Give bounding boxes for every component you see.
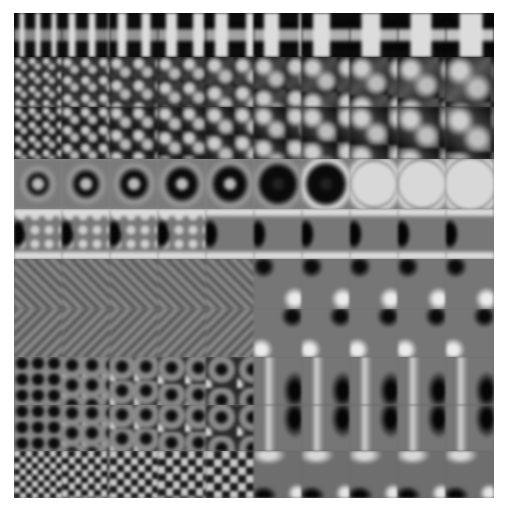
image-cell bbox=[62, 13, 110, 57]
image-cell bbox=[302, 357, 350, 405]
image-cell bbox=[62, 405, 110, 451]
image-row-1 bbox=[14, 57, 494, 108]
image-cell bbox=[254, 309, 302, 357]
image-cell bbox=[14, 259, 62, 309]
image-cell bbox=[446, 209, 494, 259]
image-cell bbox=[254, 57, 302, 107]
image-cell bbox=[110, 451, 158, 498]
image-cell bbox=[254, 259, 302, 309]
image-cell bbox=[398, 405, 446, 451]
image-cell bbox=[110, 209, 158, 259]
image-cell bbox=[206, 13, 254, 57]
image-cell bbox=[158, 259, 206, 309]
image-cell bbox=[14, 357, 62, 405]
image-cell bbox=[350, 405, 398, 451]
image-cell bbox=[446, 159, 494, 209]
image-cell bbox=[206, 57, 254, 107]
image-cell bbox=[110, 309, 158, 357]
image-cell bbox=[302, 405, 350, 451]
image-cell bbox=[158, 209, 206, 259]
image-cell bbox=[350, 451, 398, 498]
image-row-7 bbox=[14, 357, 494, 406]
image-cell bbox=[110, 259, 158, 309]
image-cell bbox=[206, 107, 254, 159]
image-cell bbox=[62, 357, 110, 405]
image-cell bbox=[158, 357, 206, 405]
image-cell bbox=[350, 357, 398, 405]
image-row-0 bbox=[14, 13, 494, 58]
image-cell bbox=[446, 405, 494, 451]
image-cell bbox=[398, 451, 446, 498]
image-cell bbox=[206, 259, 254, 309]
image-cell bbox=[350, 13, 398, 57]
image-cell bbox=[158, 405, 206, 451]
image-cell bbox=[206, 405, 254, 451]
image-cell bbox=[302, 209, 350, 259]
image-cell bbox=[158, 451, 206, 498]
image-cell bbox=[110, 357, 158, 405]
image-cell bbox=[14, 159, 62, 209]
image-cell bbox=[110, 159, 158, 209]
image-row-8 bbox=[14, 405, 494, 452]
image-cell bbox=[254, 405, 302, 451]
image-cell bbox=[62, 259, 110, 309]
image-row-2 bbox=[14, 107, 494, 160]
image-cell bbox=[350, 57, 398, 107]
image-cell bbox=[398, 309, 446, 357]
image-cell bbox=[302, 159, 350, 209]
image-row-6 bbox=[14, 309, 494, 358]
image-row-5 bbox=[14, 259, 494, 310]
image-cell bbox=[158, 107, 206, 159]
image-cell bbox=[350, 259, 398, 309]
image-cell bbox=[302, 13, 350, 57]
image-cell bbox=[206, 209, 254, 259]
image-cell bbox=[62, 107, 110, 159]
image-cell bbox=[446, 107, 494, 159]
image-row-4 bbox=[14, 209, 494, 260]
image-cell bbox=[350, 107, 398, 159]
image-cell bbox=[350, 209, 398, 259]
image-cell bbox=[254, 451, 302, 498]
image-cell bbox=[254, 107, 302, 159]
image-cell bbox=[158, 57, 206, 107]
image-cell bbox=[446, 451, 494, 498]
image-cell bbox=[302, 309, 350, 357]
image-cell bbox=[446, 259, 494, 309]
image-cell bbox=[110, 405, 158, 451]
image-cell bbox=[254, 13, 302, 57]
image-cell bbox=[350, 309, 398, 357]
image-cell bbox=[14, 209, 62, 259]
image-cell bbox=[398, 159, 446, 209]
image-cell bbox=[14, 107, 62, 159]
image-cell bbox=[398, 13, 446, 57]
image-cell bbox=[302, 107, 350, 159]
image-cell bbox=[398, 57, 446, 107]
image-cell bbox=[158, 159, 206, 209]
image-cell bbox=[302, 451, 350, 498]
image-cell bbox=[398, 209, 446, 259]
image-cell bbox=[206, 451, 254, 498]
image-cell bbox=[254, 209, 302, 259]
image-cell bbox=[302, 259, 350, 309]
image-cell bbox=[446, 57, 494, 107]
image-cell bbox=[110, 13, 158, 57]
image-cell bbox=[14, 405, 62, 451]
image-cell bbox=[62, 451, 110, 498]
image-cell bbox=[446, 13, 494, 57]
image-cell bbox=[206, 357, 254, 405]
image-cell bbox=[158, 309, 206, 357]
image-cell bbox=[350, 159, 398, 209]
image-cell bbox=[110, 57, 158, 107]
image-cell bbox=[446, 309, 494, 357]
image-cell bbox=[302, 57, 350, 107]
image-cell bbox=[206, 309, 254, 357]
image-cell bbox=[158, 13, 206, 57]
image-cell bbox=[398, 357, 446, 405]
image-row-3 bbox=[14, 159, 494, 210]
image-cell bbox=[398, 259, 446, 309]
image-cell bbox=[62, 209, 110, 259]
image-cell bbox=[254, 357, 302, 405]
image-cell bbox=[398, 107, 446, 159]
image-cell bbox=[62, 57, 110, 107]
image-cell bbox=[206, 159, 254, 209]
